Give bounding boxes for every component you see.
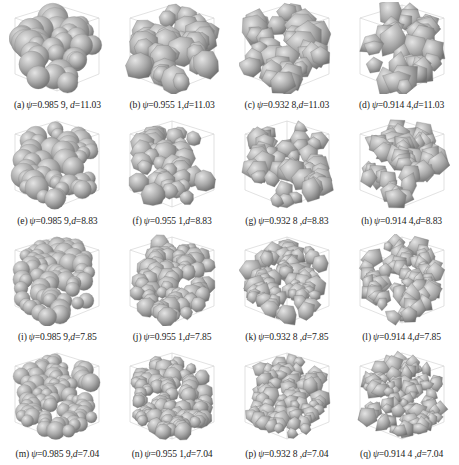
particle-packing-render	[239, 118, 335, 210]
psi-value: 0.985 9	[40, 331, 68, 342]
panel-label: (p)	[245, 448, 256, 459]
particle-packing-render	[354, 2, 450, 94]
psi-value: 0.955 1	[154, 99, 182, 110]
d-symbol: d	[302, 215, 307, 226]
psi-symbol: ψ	[144, 331, 150, 342]
figure-panel-c: (c)ψ=0.932 8,d=11.03	[230, 0, 345, 116]
panel-label: (a)	[14, 99, 24, 110]
d-value: 8.83	[81, 215, 97, 226]
psi-symbol: ψ	[374, 215, 380, 226]
panel-label: (n)	[132, 448, 143, 459]
d-value: 7.85	[425, 331, 441, 342]
panel-label: (i)	[18, 331, 27, 342]
figure-panel-f: (f)ψ=0.955 1,d=8.83	[115, 116, 230, 232]
psi-symbol: ψ	[144, 215, 150, 226]
panel-caption: (l)ψ=0.914 4,d=7.85	[344, 331, 459, 342]
psi-symbol: ψ	[257, 99, 263, 110]
psi-symbol: ψ	[373, 331, 379, 342]
d-value: 11.03	[308, 99, 329, 110]
psi-value: 0.932 8	[269, 215, 297, 226]
psi-symbol: ψ	[26, 99, 32, 110]
particle-packing-render	[239, 2, 335, 94]
panel-label: (b)	[130, 99, 141, 110]
panel-caption: (f)ψ=0.955 1,d=8.83	[115, 215, 230, 226]
psi-value: 0.932 8	[269, 448, 297, 459]
d-value: 7.04	[83, 448, 99, 459]
panel-caption: (q)ψ=0.914 4 ,d=7.04	[344, 448, 459, 459]
d-symbol: d	[298, 99, 303, 110]
figure-panel-d: (d)ψ=0.914 4,d=11.03	[344, 0, 459, 116]
particle-packing-render	[9, 234, 105, 326]
panel-label: (e)	[17, 215, 27, 226]
d-symbol: d	[70, 99, 75, 110]
figure-panel-n: (n)ψ=0.955 1,d=7.04	[115, 348, 230, 465]
d-symbol: d	[185, 215, 190, 226]
psi-symbol: ψ	[372, 99, 378, 110]
particle-packing-render	[354, 234, 450, 326]
psi-value: 0.914 4	[383, 99, 411, 110]
psi-symbol: ψ	[29, 331, 35, 342]
d-symbol: d	[302, 331, 307, 342]
d-value: 11.03	[424, 99, 445, 110]
figure-panel-p: (p)ψ=0.932 8 ,d=7.04	[230, 348, 345, 465]
d-symbol: d	[73, 448, 78, 459]
psi-value: 0.985 9	[37, 99, 65, 110]
panel-caption: (m)ψ=0.985 9,d=7.04	[0, 448, 115, 459]
psi-value: 0.985 9	[41, 215, 69, 226]
panel-label: (j)	[133, 331, 142, 342]
particle-packing-render	[124, 118, 220, 210]
panel-caption: (n)ψ=0.955 1,d=7.04	[115, 448, 230, 459]
psi-value: 0.914 4	[385, 215, 413, 226]
figure-panel-m: (m)ψ=0.985 9,d=7.04	[0, 348, 115, 465]
figure-panel-b: (b)ψ=0.955 1,d=11.03	[115, 0, 230, 116]
figure-panel-k: (k)ψ=0.932 8 ,d=7.85	[230, 232, 345, 348]
d-symbol: d	[184, 99, 189, 110]
panel-caption: (a)ψ=0.985 9, d=11.03	[0, 99, 115, 110]
d-value: 7.85	[80, 331, 96, 342]
figure-panel-l: (l)ψ=0.914 4,d=7.85	[344, 232, 459, 348]
d-value: 8.83	[195, 215, 211, 226]
panel-caption: (h)ψ=0.914 4,d=8.83	[344, 215, 459, 226]
panel-label: (g)	[245, 215, 256, 226]
psi-value: 0.932 8	[269, 331, 297, 342]
psi-symbol: ψ	[258, 215, 264, 226]
d-value: 7.85	[312, 331, 328, 342]
figure-panel-h: (h)ψ=0.914 4,d=8.83	[344, 116, 459, 232]
psi-value: 0.955 1	[155, 331, 183, 342]
d-symbol: d	[416, 215, 421, 226]
panel-caption: (c)ψ=0.932 8,d=11.03	[230, 99, 345, 110]
d-symbol: d	[413, 99, 418, 110]
d-symbol: d	[70, 331, 75, 342]
panel-label: (c)	[245, 99, 255, 110]
psi-symbol: ψ	[258, 331, 264, 342]
figure-panel-g: (g)ψ=0.932 8 ,d=8.83	[230, 116, 345, 232]
d-symbol: d	[417, 448, 422, 459]
d-value: 11.03	[80, 99, 101, 110]
panel-caption: (p)ψ=0.932 8 ,d=7.04	[230, 448, 345, 459]
particle-packing-render	[9, 118, 105, 210]
panel-caption: (j)ψ=0.955 1,d=7.85	[115, 331, 230, 342]
d-symbol: d	[71, 215, 76, 226]
d-value: 7.04	[312, 448, 328, 459]
d-value: 11.03	[194, 99, 215, 110]
particle-packing-render	[124, 2, 220, 94]
psi-symbol: ψ	[142, 99, 148, 110]
particle-packing-render	[354, 118, 450, 210]
figure-panel-a: (a)ψ=0.985 9, d=11.03	[0, 0, 115, 116]
panel-label: (l)	[362, 331, 371, 342]
d-value: 7.85	[195, 331, 211, 342]
d-symbol: d	[302, 448, 307, 459]
panel-caption: (k)ψ=0.932 8 ,d=7.85	[230, 331, 345, 342]
panel-label: (k)	[245, 331, 256, 342]
panel-label: (q)	[360, 448, 371, 459]
psi-value: 0.914 4	[384, 448, 412, 459]
panel-label: (h)	[361, 215, 372, 226]
psi-value: 0.955 1	[155, 215, 183, 226]
psi-symbol: ψ	[258, 448, 264, 459]
panel-label: (m)	[16, 448, 30, 459]
psi-symbol: ψ	[30, 215, 36, 226]
figure-panel-e: (e)ψ=0.985 9,d=8.83	[0, 116, 115, 232]
figure-panel-i: (i)ψ=0.985 9,d=7.85	[0, 232, 115, 348]
panel-caption: (b)ψ=0.955 1,d=11.03	[115, 99, 230, 110]
d-symbol: d	[415, 331, 420, 342]
